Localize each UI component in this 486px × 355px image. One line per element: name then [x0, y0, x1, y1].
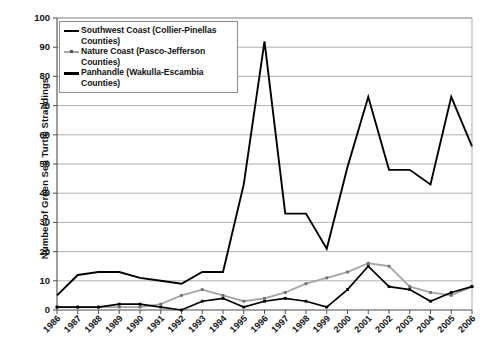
data-point-marker	[263, 297, 266, 300]
x-tick-label: 1990	[124, 313, 145, 334]
data-point-marker	[284, 297, 287, 300]
x-tick-label: 1998	[290, 313, 311, 334]
data-point-marker	[97, 306, 100, 309]
data-point-marker	[242, 306, 245, 309]
data-point-marker	[201, 300, 204, 303]
legend-item-southwest-coast: Southwest Coast (Collier-Pinellas Counti…	[63, 25, 233, 46]
y-tick-label: 70	[39, 100, 50, 111]
data-point-marker	[408, 285, 411, 288]
chart-figure: Number of Green Sea Turtle Strandings 01…	[0, 0, 486, 355]
data-point-marker	[367, 262, 370, 265]
x-tick-label: 1995	[228, 313, 249, 334]
data-point-marker	[367, 265, 370, 268]
y-tick-label: 20	[39, 246, 50, 257]
data-point-marker	[408, 288, 411, 291]
x-tick-label: 1997	[269, 313, 290, 334]
y-tick-label: 0	[45, 304, 50, 315]
data-point-marker	[388, 265, 391, 268]
y-tick-label: 40	[39, 187, 50, 198]
x-tick-label: 2004	[415, 313, 436, 334]
data-point-marker	[305, 282, 308, 285]
x-tick-label: 1991	[145, 313, 166, 334]
y-tick-label: 30	[39, 216, 50, 227]
x-tick-label: 1989	[103, 313, 124, 334]
legend-swatch-panhandle	[63, 67, 80, 78]
data-point-marker	[139, 306, 142, 309]
data-point-marker	[222, 294, 225, 297]
data-point-marker	[159, 303, 162, 306]
x-tick-label: 1994	[207, 313, 228, 334]
data-point-marker	[284, 291, 287, 294]
y-tick-label: 80	[39, 70, 50, 81]
data-point-marker	[388, 285, 391, 288]
data-point-marker	[346, 271, 349, 274]
legend-item-panhandle: Panhandle (Wakulla-Escambia Counties)	[63, 67, 233, 88]
legend-label-southwest-coast: Southwest Coast (Collier-Pinellas Counti…	[81, 25, 233, 46]
x-tick-label: 1986	[41, 313, 62, 334]
data-point-marker	[76, 306, 79, 309]
data-point-marker	[325, 306, 328, 309]
x-tick-label: 1992	[166, 313, 187, 334]
data-point-marker	[201, 288, 204, 291]
data-point-marker	[139, 303, 142, 306]
data-point-marker	[180, 309, 183, 312]
data-point-marker	[180, 294, 183, 297]
data-point-marker	[325, 276, 328, 279]
data-point-marker	[263, 300, 266, 303]
y-tick-label: 90	[39, 41, 50, 52]
y-tick-label: 60	[39, 129, 50, 140]
x-tick-label: 2005	[435, 313, 456, 334]
data-point-marker	[118, 306, 121, 309]
data-point-marker	[450, 294, 453, 297]
data-point-marker	[118, 303, 121, 306]
x-tick-label: 1999	[311, 313, 332, 334]
x-tick-label: 2003	[394, 313, 415, 334]
data-point-marker	[305, 300, 308, 303]
data-point-marker	[450, 291, 453, 294]
x-tick-label: 2002	[373, 313, 394, 334]
data-point-marker	[222, 297, 225, 300]
x-tick-label: 2006	[456, 313, 477, 334]
data-point-marker	[429, 300, 432, 303]
x-tick-label: 1987	[62, 313, 83, 334]
x-tick-label: 2001	[352, 313, 373, 334]
y-tick-label: 100	[34, 12, 50, 23]
data-point-marker	[429, 291, 432, 294]
x-tick-group	[57, 310, 472, 314]
data-point-marker	[159, 306, 162, 309]
legend-label-nature-coast: Nature Coast (Pasco-Jefferson Counties)	[81, 46, 233, 67]
x-tick-label: 1996	[249, 313, 270, 334]
x-tick-labels: 1986198719881989199019911992199319941995…	[41, 313, 477, 334]
legend-item-nature-coast: Nature Coast (Pasco-Jefferson Counties)	[63, 46, 233, 67]
legend-swatch-nature-coast	[63, 46, 80, 57]
data-point-marker	[242, 300, 245, 303]
x-tick-label: 1993	[186, 313, 207, 334]
x-tick-label: 2000	[332, 313, 353, 334]
y-tick-label: 50	[39, 158, 50, 169]
y-tick-label: 10	[39, 275, 50, 286]
chart-legend: Southwest Coast (Collier-Pinellas Counti…	[59, 21, 238, 93]
legend-label-panhandle: Panhandle (Wakulla-Escambia Counties)	[81, 67, 233, 88]
data-point-marker	[471, 285, 474, 288]
data-point-marker	[346, 288, 349, 291]
x-tick-label: 1988	[83, 313, 104, 334]
legend-swatch-southwest-coast	[63, 25, 80, 36]
data-point-marker	[56, 306, 59, 309]
y-tick-group: 0102030405060708090100	[34, 12, 57, 315]
